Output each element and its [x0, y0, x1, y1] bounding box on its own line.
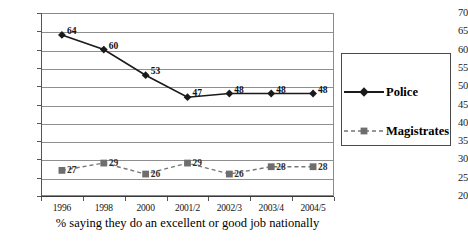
y-tick-label: 30 [432, 154, 468, 164]
x-tick-label: 1996 [41, 203, 83, 214]
legend-item-magistrates[interactable]: Magistrates [342, 122, 452, 140]
y-axis-line [41, 13, 42, 196]
x-tick-mark [250, 197, 251, 201]
y-tick-label: 70 [432, 8, 468, 18]
x-tick-mark [292, 197, 293, 201]
x-tick-mark [125, 197, 126, 201]
chart-figure: 7065605550454035302520 1996199820002001/… [0, 0, 468, 241]
police-data-label: 48 [276, 85, 286, 95]
x-tick-label: 2003/4 [250, 203, 292, 214]
magistrates-line-sample-icon [342, 124, 386, 138]
gridline [42, 160, 333, 161]
x-tick-mark [208, 197, 209, 201]
x-tick-mark [41, 197, 42, 201]
police-data-label: 64 [67, 26, 77, 36]
police-line-sample-icon [342, 85, 386, 99]
plot-area [41, 13, 334, 196]
police-data-label: 53 [151, 66, 161, 76]
legend-label-police: Police [386, 85, 418, 99]
police-data-label: 48 [318, 85, 328, 95]
magistrates-data-label: 29 [193, 158, 203, 168]
police-data-label: 47 [193, 88, 203, 98]
x-axis-line [41, 196, 334, 197]
x-axis-caption: % saying they do an excellent or good jo… [41, 216, 334, 231]
x-tick-label: 2000 [125, 203, 167, 214]
x-tick-label: 2001/2 [167, 203, 209, 214]
x-tick-mark [167, 197, 168, 201]
gridline [42, 106, 333, 107]
gridline [42, 142, 333, 143]
gridline [42, 124, 333, 125]
magistrates-data-label: 26 [234, 169, 244, 179]
magistrates-data-label: 27 [67, 165, 77, 175]
gridline [42, 87, 333, 88]
police-data-label: 48 [234, 85, 244, 95]
gridline [42, 51, 333, 52]
legend-item-police[interactable]: Police [342, 83, 452, 101]
x-tick-mark [83, 197, 84, 201]
x-tick-label: 2002/3 [208, 203, 250, 214]
magistrates-data-label: 28 [318, 162, 328, 172]
y-tick-label: 20 [432, 191, 468, 201]
legend-label-magistrates: Magistrates [386, 124, 449, 138]
x-tick-label: 2004/5 [292, 203, 334, 214]
y-tick-label: 25 [432, 173, 468, 183]
y-tick-label: 65 [432, 26, 468, 36]
x-tick-mark [334, 197, 335, 201]
magistrates-data-label: 29 [109, 158, 119, 168]
x-tick-label: 1998 [83, 203, 125, 214]
magistrates-data-label: 28 [276, 162, 286, 172]
gridline [42, 32, 333, 33]
magistrates-data-label: 26 [151, 169, 161, 179]
police-data-label: 60 [109, 41, 119, 51]
gridline [42, 69, 333, 70]
gridline [42, 179, 333, 180]
legend: Police Magistrates [341, 53, 451, 146]
